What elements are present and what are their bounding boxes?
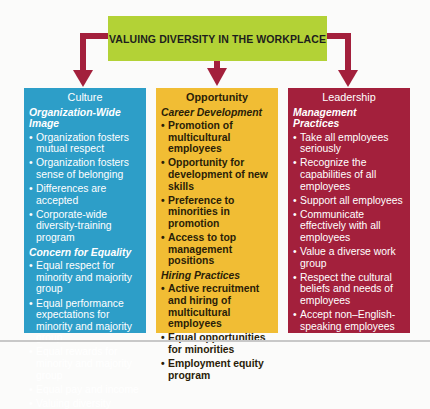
list-item: Communicate effectively with all employe… <box>293 209 405 244</box>
column-title-opportunity: Opportunity <box>161 92 273 104</box>
list-item: Value a diverse work group <box>293 246 405 269</box>
list-item: Equal respect for minority and majority … <box>29 260 141 295</box>
list-item: Accept non–English-speaking employees <box>293 309 405 332</box>
diagram-title: VALUING DIVERSITY IN THE WORKPLACE <box>109 33 326 45</box>
bottom-divider <box>0 340 430 342</box>
opportunity-box: Opportunity Career Development Promotion… <box>156 88 278 333</box>
bullet-list: Promotion of multicultural employees Opp… <box>161 120 273 267</box>
bullet-list: Take all employees seriously Recognize t… <box>293 132 405 333</box>
list-item: Equal performance expectations for minor… <box>29 298 141 344</box>
list-item: Support all employees <box>293 195 405 207</box>
arrow-to-culture <box>83 36 108 72</box>
section-heading: Management Practices <box>293 107 405 130</box>
list-item: Recognize the capabilities of all employ… <box>293 157 405 192</box>
list-item: Access to top management positions <box>161 232 273 267</box>
list-item: Take all employees seriously <box>293 132 405 155</box>
column-title-leadership: Leadership <box>293 92 405 104</box>
bullet-list: Organization fosters mutual respect Orga… <box>29 132 141 244</box>
list-item: Differences are accepted <box>29 183 141 206</box>
bullet-list: Active recruitment and hiring of multicu… <box>161 283 273 381</box>
list-item: Opportunity for development of new skill… <box>161 157 273 192</box>
list-item: Equal opportunities for minorities <box>161 332 273 355</box>
list-item: Equal pay and income <box>29 384 141 396</box>
section-heading: Hiring Practices <box>161 270 273 282</box>
bullet-list: Equal respect for minority and majority … <box>29 260 141 409</box>
diagram-title-banner: VALUING DIVERSITY IN THE WORKPLACE <box>108 16 327 61</box>
list-item: Organization fosters sense of belonging <box>29 157 141 180</box>
list-item: Equal rewards for minority and majority … <box>29 346 141 381</box>
list-item: Organization fosters mutual respect <box>29 132 141 155</box>
list-item: Employment equity program <box>161 358 273 381</box>
list-item: Corporate-wide diversity-training progra… <box>29 209 141 244</box>
section-heading: Career Development <box>161 107 273 119</box>
list-item: Active recruitment and hiring of multicu… <box>161 283 273 329</box>
culture-box: Culture Organization-Wide Image Organiza… <box>24 88 146 333</box>
list-item: Promotion of multicultural employees <box>161 120 273 155</box>
leadership-box: Leadership Management Practices Take all… <box>288 88 410 333</box>
section-heading: Organization-Wide Image <box>29 107 141 130</box>
arrow-to-leadership <box>327 36 348 72</box>
section-heading: Concern for Equality <box>29 247 141 259</box>
column-title-culture: Culture <box>29 92 141 104</box>
list-item: Valuing diversity <box>29 398 141 409</box>
list-item: Respect the cultural beliefs and needs o… <box>293 272 405 307</box>
list-item: Preference to minorities in promotion <box>161 195 273 230</box>
